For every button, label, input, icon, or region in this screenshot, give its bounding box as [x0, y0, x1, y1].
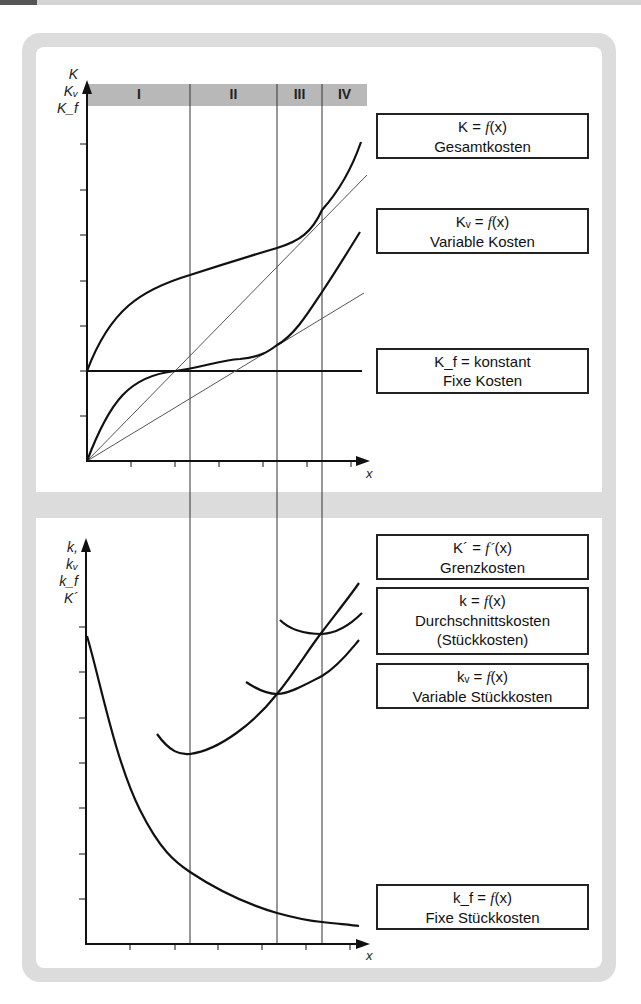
phase-label-4: IV: [322, 86, 367, 102]
top-x-arrow-icon: [356, 456, 370, 466]
top-x-axis-label: x: [366, 466, 373, 481]
legend-total-cost: K = f(x) Gesamtkosten: [376, 113, 589, 159]
phase-label-2: II: [190, 86, 277, 102]
legend-average-cost: k = f(x) Durchschnittskosten (Stückkoste…: [376, 587, 589, 655]
y-label-K: K: [56, 66, 78, 83]
bottom-y-arrow-icon: [81, 538, 91, 552]
y-label-K-prime: K´: [54, 590, 78, 607]
variable-unit-cost-curve: [246, 640, 359, 694]
phase-label-1: I: [88, 86, 190, 102]
top-y-axis-labels: K Kᵥ K_f: [56, 66, 78, 117]
y-label-Kf: K_f: [56, 100, 78, 117]
ray-total-cost: [87, 175, 367, 461]
legend-marginal-cost: K´ = f´(x) Grenzkosten: [376, 534, 589, 580]
average-cost-curve: [280, 613, 362, 634]
legend-fixed-unit-cost: k_f = f(x) Fixe Stückkosten: [376, 884, 589, 930]
legend-fixed-cost: K_f = konstant Fixe Kosten: [376, 348, 589, 394]
phase-label-3: III: [277, 86, 322, 102]
bottom-axes: [85, 548, 360, 944]
y-label-k: k,: [54, 539, 78, 556]
legend-variable-cost: Kᵥ = f(x) Variable Kosten: [376, 208, 589, 254]
total-cost-curve: [87, 142, 361, 371]
top-axes: [86, 90, 360, 461]
bottom-x-axis-label: x: [366, 948, 373, 963]
fixed-unit-cost-curve: [87, 636, 359, 926]
panel-separator: [22, 492, 616, 518]
bottom-ticks: [79, 627, 350, 950]
legend-variable-unit-cost: kᵥ = f(x) Variable Stückkosten: [376, 663, 589, 709]
marginal-cost-curve: [157, 583, 359, 754]
top-ticks: [80, 144, 351, 467]
bottom-y-axis-labels: k, kᵥ k_f K´: [54, 539, 78, 607]
y-label-kf: k_f: [54, 573, 78, 590]
y-label-kv: kᵥ: [54, 556, 78, 573]
variable-cost-curve: [87, 232, 360, 461]
y-label-Kv: Kᵥ: [56, 83, 78, 100]
